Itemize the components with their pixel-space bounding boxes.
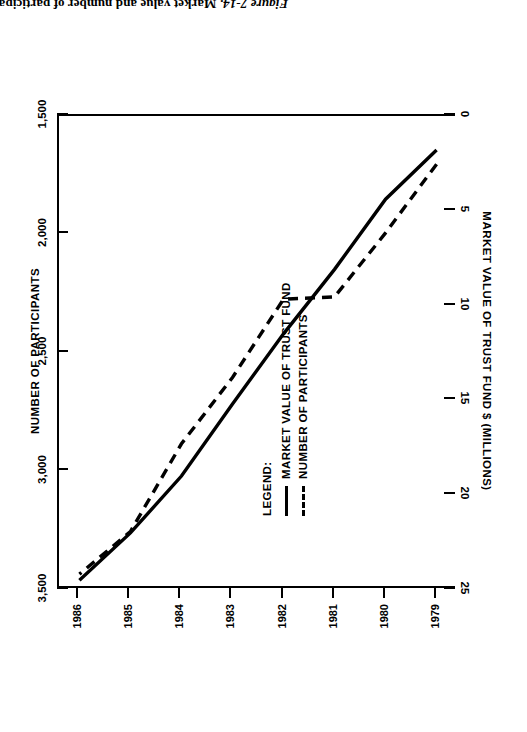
tick-year: [76, 587, 78, 598]
tick-year: [434, 587, 436, 598]
tick-year: [281, 587, 283, 598]
chart-canvas: NUMBER OF PARTICIPANTS MARKET VALUE OF T…: [29, 66, 499, 666]
tick-label-year: 1981: [327, 604, 339, 644]
tick-year: [229, 587, 231, 598]
tick-label-market-value: 25: [459, 582, 471, 595]
tick-year: [178, 587, 180, 598]
series-line-market-value: [79, 150, 436, 580]
tick-label-participants: 2,000: [36, 218, 48, 247]
tick-label-year: 1983: [224, 604, 236, 644]
tick-year: [383, 587, 385, 598]
axis-title-market-value: MARKET VALUE OF TRUST FUND $ (MILLIONS): [481, 114, 493, 588]
tick-label-participants: 3,000: [36, 455, 48, 484]
tick-label-participants: 1,500: [36, 100, 48, 129]
tick-label-market-value: 20: [459, 487, 471, 500]
tick-label-market-value: 0: [459, 111, 471, 117]
tick-label-year: 1979: [429, 604, 441, 644]
figure-caption-text: Market value and number of participants …: [0, 0, 216, 12]
legend-label-market-value: MARKET VALUE OF TRUST FUND: [280, 282, 292, 479]
tick-label-participants: 3,500: [36, 574, 48, 603]
tick-label-market-value: 10: [459, 297, 471, 310]
tick-year: [127, 587, 129, 598]
legend-label-participants: NUMBER OF PARTICIPANTS: [297, 314, 309, 479]
tick-year: [332, 587, 334, 598]
legend-entry-participants: NUMBER OF PARTICIPANTS: [297, 282, 309, 516]
tick-label-market-value: 5: [459, 206, 471, 212]
legend-swatch-solid-icon: [285, 486, 288, 516]
legend-swatch-dashed-icon: [302, 486, 305, 516]
series-lines: [59, 112, 457, 586]
legend-entry-market-value: MARKET VALUE OF TRUST FUND: [280, 282, 292, 516]
legend-heading: LEGEND:: [261, 282, 273, 516]
tick-label-year: 1982: [276, 604, 288, 644]
chart-legend: LEGEND: MARKET VALUE OF TRUST FUND NUMBE…: [261, 282, 314, 516]
tick-label-year: 1980: [378, 604, 390, 644]
tick-label-year: 1984: [173, 604, 185, 644]
tick-label-market-value: 15: [459, 392, 471, 405]
tick-label-participants: 2,500: [36, 337, 48, 366]
figure-number: Figure 7-14.: [220, 0, 288, 12]
tick-label-year: 1986: [71, 604, 83, 644]
tick-label-year: 1985: [122, 604, 134, 644]
figure-caption: Figure 7-14. Market value and number of …: [0, 0, 288, 12]
plot-area: [57, 114, 455, 588]
